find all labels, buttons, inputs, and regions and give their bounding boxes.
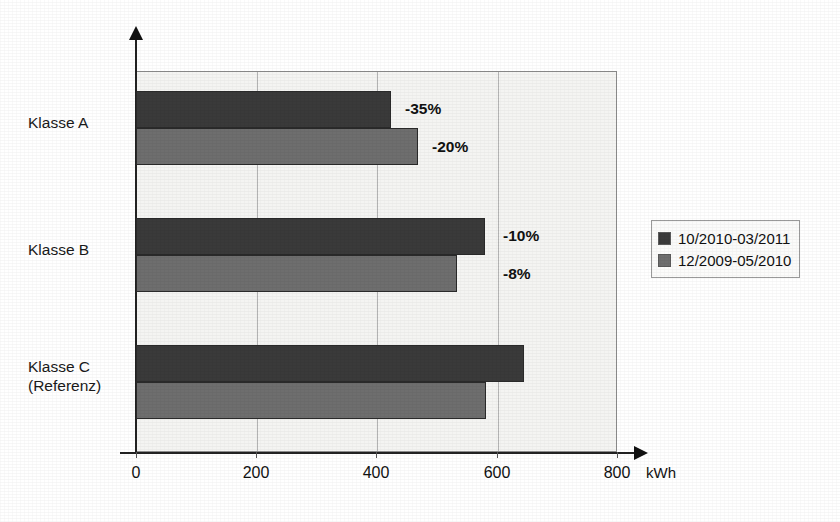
x-tick-label-0: 0	[106, 464, 166, 482]
data-label-klasse-b-series-1: -10%	[503, 227, 539, 245]
legend-label-series-2: 12/2009-05/2010	[678, 252, 791, 269]
legend-label-series-1: 10/2010-03/2011	[678, 230, 790, 247]
x-tick-mark-200	[256, 452, 257, 458]
y-axis-arrow-icon	[129, 26, 143, 40]
x-tick-mark-600	[497, 452, 498, 458]
category-label-klasse-c: Klasse C(Referenz)	[28, 357, 140, 395]
bar-chart-figure: Klasse A -35% -20% Klasse B -10% -8% Kla…	[0, 0, 840, 522]
legend-swatch-dark-icon	[658, 232, 671, 245]
bar-klasse-b-series-2	[136, 255, 457, 292]
x-tick-label-800: 800	[587, 464, 647, 482]
x-axis-unit-label: kWh	[646, 464, 676, 481]
gridline-600	[498, 72, 499, 451]
x-axis-line	[120, 452, 636, 454]
bar-klasse-a-series-2	[136, 128, 418, 165]
bar-klasse-b-series-1	[136, 218, 485, 255]
data-label-klasse-a-series-1: -35%	[405, 100, 441, 118]
legend-swatch-gray-icon	[658, 254, 671, 267]
bar-klasse-c-series-2	[136, 382, 486, 419]
x-axis-arrow-icon	[634, 446, 648, 460]
category-label-line1: Klasse A	[28, 114, 88, 131]
category-label-line2: (Referenz)	[28, 377, 101, 394]
data-label-klasse-b-series-2: -8%	[503, 265, 531, 283]
x-tick-label-600: 600	[467, 464, 527, 482]
bar-klasse-c-series-1	[136, 345, 524, 382]
data-label-klasse-a-series-2: -20%	[432, 138, 468, 156]
x-tick-label-200: 200	[226, 464, 286, 482]
category-label-line1: Klasse C	[28, 358, 90, 375]
legend-item-series-2: 12/2009-05/2010	[658, 249, 791, 271]
x-tick-mark-0	[136, 452, 137, 458]
x-tick-mark-400	[376, 452, 377, 458]
x-tick-label-400: 400	[346, 464, 406, 482]
legend-item-series-1: 10/2010-03/2011	[658, 227, 791, 249]
chart-legend: 10/2010-03/2011 12/2009-05/2010	[651, 220, 800, 278]
category-label-line1: Klasse B	[28, 241, 89, 258]
x-tick-mark-800	[617, 452, 618, 458]
bar-klasse-a-series-1	[136, 91, 391, 128]
category-label-klasse-a: Klasse A	[28, 113, 132, 132]
category-label-klasse-b: Klasse B	[28, 240, 132, 259]
